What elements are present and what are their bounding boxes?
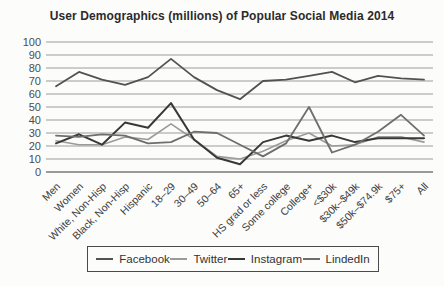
x-axis-label-8: 50–64	[194, 180, 223, 209]
legend-item-facebook: Facebook	[96, 253, 170, 265]
twitter-series-line	[56, 124, 424, 159]
y-axis-tick-0: 0	[35, 166, 41, 178]
y-axis-tick-40: 40	[29, 114, 41, 126]
y-axis-tick-70: 70	[29, 75, 41, 87]
chart-page: User Demographics (millions) of Popular …	[0, 0, 444, 286]
y-axis-tick-20: 20	[29, 140, 41, 152]
x-axis-label-17: All	[414, 180, 431, 197]
y-axis-tick-50: 50	[29, 101, 41, 113]
linkedin-line-swatch	[303, 258, 320, 261]
x-axis-label-6: 18–29	[148, 180, 177, 209]
twitter-line-swatch	[170, 258, 187, 261]
legend-label-twitter: Twitter	[193, 253, 227, 265]
chart-legend: Facebook Twitter Instagram LindedIn	[87, 246, 379, 272]
y-axis-tick-90: 90	[29, 49, 41, 61]
legend-label-facebook: Facebook	[119, 253, 170, 265]
y-axis-tick-60: 60	[29, 88, 41, 100]
facebook-line-swatch	[96, 258, 113, 261]
legend-label-linkedin: LindedIn	[326, 253, 370, 265]
y-axis-tick-100: 100	[23, 36, 41, 48]
y-axis-tick-10: 10	[29, 153, 41, 165]
facebook-series-line	[56, 59, 424, 99]
y-axis-tick-80: 80	[29, 62, 41, 74]
legend-label-instagram: Instagram	[251, 253, 302, 265]
legend-item-instagram: Instagram	[228, 253, 302, 265]
lindedin-series-line	[56, 107, 424, 156]
x-axis-label-16: $75+	[382, 180, 407, 205]
x-axis-label-7: 30–49	[171, 180, 200, 209]
legend-item-linkedin: LindedIn	[303, 253, 370, 265]
instagram-line-swatch	[228, 258, 245, 261]
y-axis-tick-30: 30	[29, 127, 41, 139]
instagram-series-line	[56, 103, 424, 164]
line-chart-canvas: 0102030405060708090100MenWomenWhite, Non…	[0, 0, 444, 286]
legend-item-twitter: Twitter	[170, 253, 227, 265]
